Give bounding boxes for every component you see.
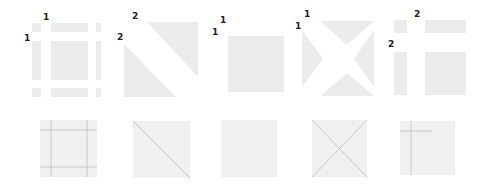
panel-5-top-label: 2 <box>414 10 420 19</box>
diagonal-guide-box <box>133 121 190 178</box>
panel-4-top-label: 1 <box>304 10 310 19</box>
four-slice-shape <box>394 20 466 95</box>
plain-box <box>221 120 277 177</box>
panel-3-top-label: 1 <box>220 16 226 25</box>
nine-slice-shape <box>32 23 101 97</box>
panel-2-left-label: 2 <box>117 33 123 42</box>
panel-4-left-label: 1 <box>295 22 301 31</box>
diagram-canvas <box>0 0 490 186</box>
cross-split-shape <box>302 21 374 96</box>
four-slice-guides-box <box>400 121 455 175</box>
diagonal-split-shape <box>124 22 198 97</box>
plain-square-shape <box>228 36 284 92</box>
cross-guides-box <box>312 120 367 177</box>
panel-5-left-label: 2 <box>388 40 394 49</box>
panel-2-top-label: 2 <box>132 12 138 21</box>
nine-slice-guides-box <box>40 120 97 177</box>
panel-1-left-label: 1 <box>24 34 30 43</box>
panel-1-top-label: 1 <box>43 13 49 22</box>
panel-3-left-label: 1 <box>212 28 218 37</box>
